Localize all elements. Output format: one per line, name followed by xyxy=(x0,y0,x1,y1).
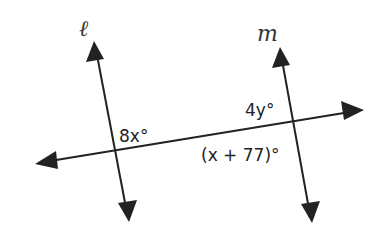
transversal-line xyxy=(35,101,364,169)
line-l-label: ℓ xyxy=(79,16,89,41)
arrowhead-right-icon xyxy=(341,101,364,120)
arrowhead-left-icon xyxy=(35,151,58,169)
parallel-lines-diagram: ℓ m 8x° 4y° (x + 77)° xyxy=(0,0,381,233)
angle-label-4y: 4y° xyxy=(245,100,274,120)
angle-label-x-plus-77: (x + 77)° xyxy=(201,145,280,165)
arrowhead-down-icon xyxy=(118,200,137,222)
arrowhead-up-icon xyxy=(86,41,104,62)
line-m xyxy=(272,47,320,223)
arrowhead-down-icon xyxy=(301,201,320,223)
angle-label-8x: 8x° xyxy=(119,126,148,146)
line-m-label: m xyxy=(257,21,278,46)
arrowhead-up-icon xyxy=(272,47,290,68)
